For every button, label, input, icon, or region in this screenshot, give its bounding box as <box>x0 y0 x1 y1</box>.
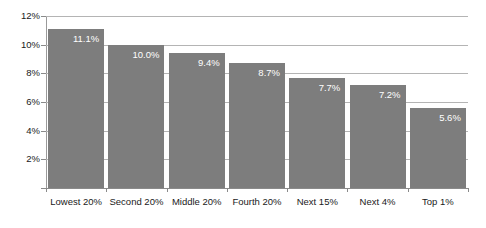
y-tick-label: 8% <box>6 68 40 78</box>
y-tick-label: 2% <box>6 154 40 164</box>
x-tick-mark <box>468 188 469 192</box>
x-tick-mark <box>106 188 107 192</box>
bar-value-label: 7.2% <box>379 89 401 100</box>
bar-value-label: 11.1% <box>73 33 99 44</box>
bar[interactable]: 8.7% <box>229 63 285 188</box>
category-label: Top 1% <box>408 196 468 208</box>
category-label: Second 20% <box>106 196 166 208</box>
category-label: Next 15% <box>287 196 347 208</box>
x-tick-mark <box>167 188 168 192</box>
bar-value-label: 9.4% <box>198 57 220 68</box>
x-tick-mark <box>46 188 47 192</box>
bar[interactable]: 5.6% <box>410 108 466 188</box>
x-tick-mark <box>408 188 409 192</box>
bar-value-label: 5.6% <box>439 112 461 123</box>
category-label: Middle 20% <box>167 196 227 208</box>
bar-value-label: 10.0% <box>132 49 159 60</box>
x-tick-mark <box>347 188 348 192</box>
bar[interactable]: 7.2% <box>350 85 406 188</box>
y-tick-label: 12% <box>6 11 40 21</box>
x-tick-mark <box>287 188 288 192</box>
category-label: Lowest 20% <box>46 196 106 208</box>
x-tick-mark <box>227 188 228 192</box>
bar[interactable]: 11.1% <box>48 29 104 188</box>
bar-value-label: 8.7% <box>258 67 280 78</box>
y-tick-label: 4% <box>6 126 40 136</box>
bar[interactable]: 9.4% <box>169 53 225 188</box>
y-tick-label: 10% <box>6 40 40 50</box>
bar[interactable]: 10.0% <box>108 45 164 188</box>
bar-value-label: 7.7% <box>319 82 341 93</box>
category-label: Next 4% <box>347 196 407 208</box>
gridline <box>46 188 468 189</box>
plot-area: 11.1%10.0%9.4%8.7%7.7%7.2%5.6% <box>46 16 468 188</box>
y-tick-label: 6% <box>6 97 40 107</box>
bar-chart: 2%4%6%8%10%12% 11.1%10.0%9.4%8.7%7.7%7.2… <box>0 0 486 228</box>
bar[interactable]: 7.7% <box>289 78 345 188</box>
category-label: Fourth 20% <box>227 196 287 208</box>
